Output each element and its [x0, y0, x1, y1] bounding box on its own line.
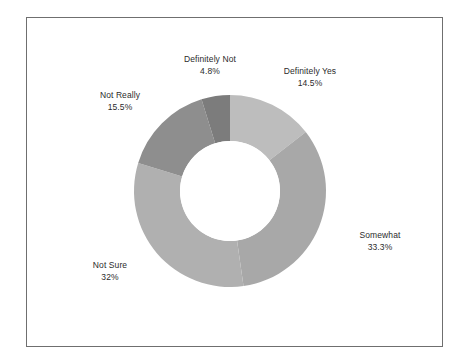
slice-label-not-really: Not Really 15.5% — [60, 89, 180, 113]
slice-label-not-sure-name: Not Sure — [55, 259, 165, 271]
slice-label-definitely-yes-name: Definitely Yes — [250, 65, 370, 77]
slice-label-somewhat-value: 33.3% — [325, 241, 435, 253]
slice-label-somewhat-name: Somewhat — [325, 229, 435, 241]
slice-label-not-really-name: Not Really — [60, 89, 180, 101]
slice-label-not-sure-value: 32% — [55, 271, 165, 283]
slice-label-somewhat: Somewhat 33.3% — [325, 229, 435, 253]
slice-label-definitely-not-name: Definitely Not — [150, 53, 270, 65]
slice-label-not-really-value: 15.5% — [60, 101, 180, 113]
slice-label-definitely-yes-value: 14.5% — [250, 77, 370, 89]
slice-label-definitely-yes: Definitely Yes 14.5% — [250, 65, 370, 89]
slice-label-not-sure: Not Sure 32% — [55, 259, 165, 283]
donut-hole — [180, 141, 280, 241]
donut-chart: Definitely Not 4.8% Definitely Yes 14.5%… — [0, 0, 469, 364]
